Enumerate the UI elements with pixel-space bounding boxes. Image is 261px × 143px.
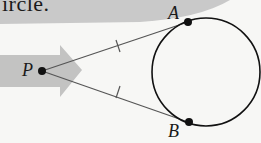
point-P — [38, 67, 46, 75]
segment-PA — [42, 22, 188, 71]
point-B — [185, 118, 193, 126]
label-A: A — [168, 3, 179, 24]
tick-mark-PB — [116, 86, 120, 98]
label-P: P — [22, 60, 33, 81]
tangent-figure — [0, 0, 261, 143]
point-A — [184, 18, 192, 26]
circle — [152, 18, 260, 126]
label-B: B — [168, 121, 179, 142]
segment-PB — [42, 71, 188, 122]
